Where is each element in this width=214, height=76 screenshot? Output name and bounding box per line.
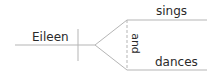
predicate-label-2: dances: [155, 56, 198, 68]
sentence-diagram: Eileen sings dances and: [0, 0, 214, 76]
lower-fork-line: [95, 45, 127, 70]
subject-label: Eileen: [32, 31, 69, 43]
predicate-label-1: sings: [156, 5, 187, 17]
conjunction-label: and: [130, 33, 141, 54]
upper-fork-line: [95, 20, 127, 45]
